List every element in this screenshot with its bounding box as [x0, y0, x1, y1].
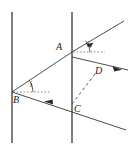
dashed-line-C-to-D [72, 74, 95, 104]
label-angle-at-a: i [87, 40, 89, 49]
label-point-d: D [95, 66, 102, 76]
label-point-b: B [13, 95, 19, 105]
incident-ray-into-A [72, 21, 124, 52]
ray-A-to-B [12, 52, 72, 92]
emergent-ray-arrowhead-icon [113, 66, 123, 71]
diagram-canvas [0, 0, 130, 153]
ray-B-to-C [12, 92, 126, 130]
label-point-c: C [74, 104, 81, 114]
refraction-diagram: A B C D i i [0, 0, 130, 153]
label-point-a: A [56, 42, 62, 52]
label-angle-at-b: i [30, 80, 32, 89]
